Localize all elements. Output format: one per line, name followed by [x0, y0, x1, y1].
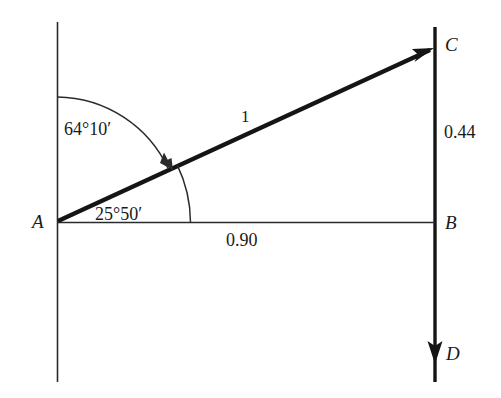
- point-label-D: D: [446, 344, 460, 363]
- segment-AC: [58, 50, 430, 221]
- length-label-AB: 0.90: [226, 231, 258, 249]
- angle-label-25-50: 25°50′: [95, 205, 142, 223]
- arc-angle-25: [177, 165, 190, 223]
- length-label-hypotenuse: 1: [241, 108, 250, 125]
- point-label-A: A: [32, 212, 44, 231]
- point-label-C: C: [445, 35, 458, 54]
- length-label-BC: 0.44: [444, 123, 476, 141]
- arrow-angle-64: [160, 153, 173, 171]
- angle-label-64-10: 64°10′: [64, 120, 111, 138]
- figure-canvas: [0, 0, 501, 398]
- point-label-B: B: [445, 213, 457, 232]
- geometry-diagram: A B C D 64°10′ 25°50′ 1 0.44 0.90: [0, 0, 501, 398]
